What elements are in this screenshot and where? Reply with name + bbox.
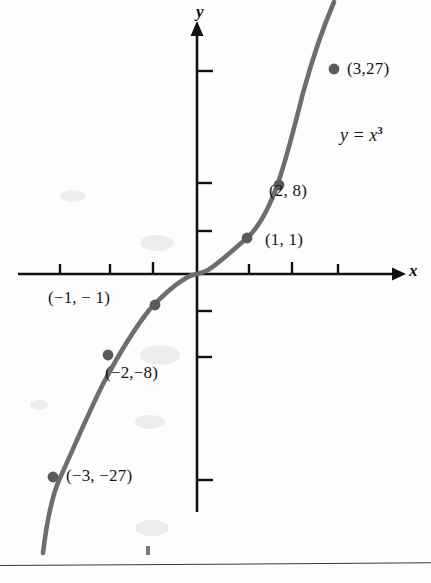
figure-canvas: y x (3,27) (2, 8) (1, 1) (−1, − 1) (−2,−… [0, 0, 431, 583]
y-axis [191, 21, 204, 512]
function-equation-label: y = x3 [340, 126, 383, 144]
point-label-1-1: (1, 1) [265, 231, 303, 248]
point-label-neg2-neg8: (−2,−8) [105, 364, 158, 381]
point-label-2-8: (2, 8) [269, 182, 307, 199]
data-point--2--8 [103, 350, 114, 361]
point-label-3-27: (3,27) [347, 60, 389, 77]
equation-exponent: 3 [377, 124, 383, 136]
data-point-3-27 [329, 64, 340, 75]
x-axis-arrowhead [392, 268, 406, 281]
x-axis-label: x [409, 262, 418, 279]
data-point--1--1 [150, 300, 161, 311]
scan-speck [146, 546, 150, 555]
point-label-neg1-neg1: (−1, − 1) [48, 289, 110, 306]
equation-body: y = x [340, 125, 377, 145]
point-label-neg3-neg27: (−3, −27) [66, 467, 132, 484]
y-axis-label: y [196, 3, 204, 20]
data-point--3--27 [48, 472, 59, 483]
y-axis-arrowhead [191, 21, 204, 36]
data-point-1-1 [242, 233, 253, 244]
